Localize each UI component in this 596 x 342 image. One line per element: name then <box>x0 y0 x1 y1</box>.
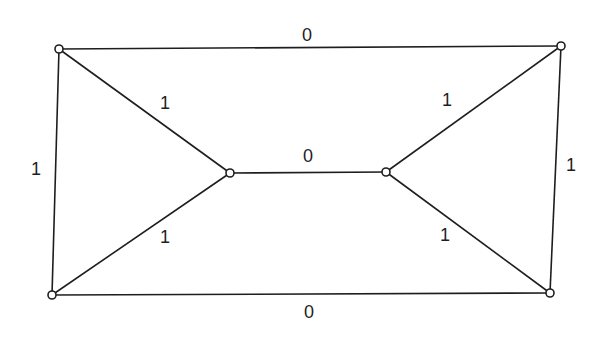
nodes-layer <box>48 42 565 299</box>
edge-mid-left-mid-right <box>230 172 386 173</box>
edge-weight-label: 0 <box>303 146 313 166</box>
edge-weight-label: 0 <box>302 25 312 45</box>
edge-bottom-left-bottom-right <box>52 293 550 295</box>
edge-top-right-bottom-right <box>550 46 561 293</box>
edges-layer <box>52 46 561 295</box>
edge-weight-label: 1 <box>160 93 170 113</box>
edge-weight-label: 1 <box>566 155 576 175</box>
node-top-right <box>557 42 565 50</box>
node-mid-left <box>226 169 234 177</box>
node-mid-right <box>382 168 390 176</box>
node-bottom-right <box>546 289 554 297</box>
edge-top-left-top-right <box>59 46 561 49</box>
edge-top-left-bottom-left <box>52 49 59 295</box>
node-bottom-left <box>48 291 56 299</box>
edge-weight-label: 1 <box>442 90 452 110</box>
edge-weight-label: 0 <box>304 302 314 322</box>
node-top-left <box>55 45 63 53</box>
edge-top-left-mid-left <box>59 49 230 173</box>
edge-top-right-mid-right <box>386 46 561 172</box>
edge-bottom-left-mid-left <box>52 173 230 295</box>
edge-weight-label: 1 <box>31 159 41 179</box>
edge-weight-label: 1 <box>440 225 450 245</box>
edge-weight-label: 1 <box>160 227 170 247</box>
edge-bottom-right-mid-right <box>386 172 550 293</box>
weighted-graph-diagram: 011101110 <box>0 0 596 342</box>
